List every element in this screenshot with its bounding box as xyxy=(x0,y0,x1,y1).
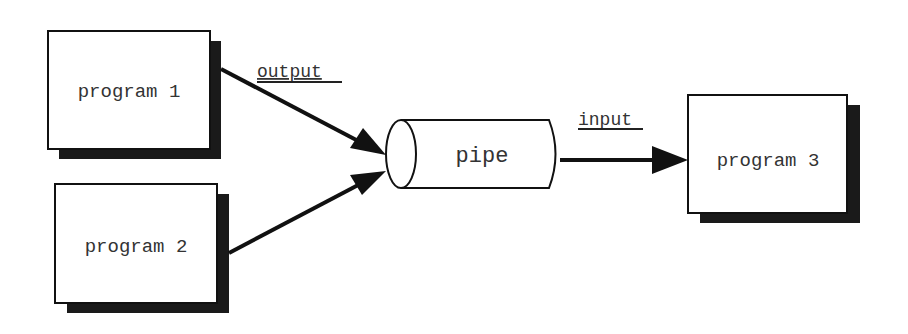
pipe-end-cap xyxy=(386,120,416,188)
node-program-3: program 3 xyxy=(688,95,860,223)
edge-pipe-to-program-3: input xyxy=(560,110,688,174)
arrowhead-icon xyxy=(350,128,386,155)
node-pipe: pipe xyxy=(386,120,556,188)
arrowhead-icon xyxy=(652,146,688,174)
pipe-label: pipe xyxy=(456,144,509,169)
edge-program-2-to-pipe xyxy=(229,171,386,253)
node-program-1: program 1 xyxy=(48,31,221,159)
edge-program-1-to-pipe: output xyxy=(221,62,386,155)
node-label: program 3 xyxy=(717,150,820,172)
arrowhead-icon xyxy=(350,171,386,195)
node-label: program 2 xyxy=(85,236,188,258)
edge-label-input: input xyxy=(578,110,632,130)
edge-label-output: output xyxy=(257,62,322,82)
node-program-2: program 2 xyxy=(55,184,229,313)
pipe-diagram: program 1 program 2 program 3 pipe outpu… xyxy=(0,0,908,334)
arrow-line xyxy=(229,183,362,253)
node-label: program 1 xyxy=(78,81,181,103)
